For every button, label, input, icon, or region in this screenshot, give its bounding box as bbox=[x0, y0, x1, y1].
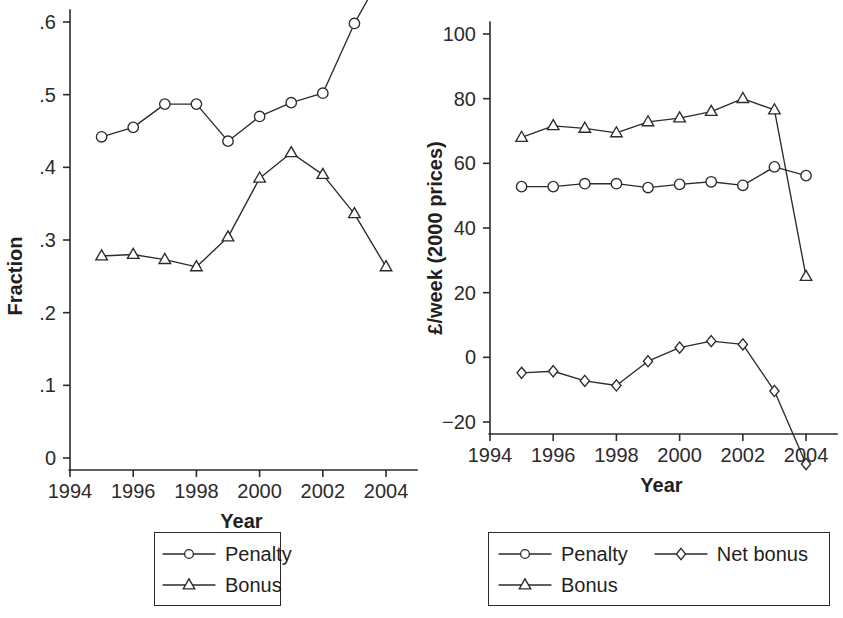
legend-key-marker bbox=[676, 548, 685, 559]
data-point-marker bbox=[96, 132, 106, 142]
data-point-marker bbox=[611, 179, 621, 189]
series-line bbox=[102, 0, 386, 141]
x-axis-tick-label: 2000 bbox=[237, 480, 282, 502]
legend-key-marker bbox=[519, 578, 531, 588]
series-line bbox=[522, 167, 806, 188]
data-point-marker bbox=[160, 99, 170, 109]
x-axis-tick-label: 1996 bbox=[111, 480, 156, 502]
x-axis-tick-label: 2002 bbox=[721, 444, 766, 466]
legend-key-triangle bbox=[162, 576, 216, 594]
data-point-marker bbox=[706, 177, 716, 187]
legend-row: Penalty bbox=[162, 538, 273, 569]
data-point-marker bbox=[579, 122, 591, 132]
series-penalty bbox=[516, 162, 811, 193]
legend-marker-circle-icon bbox=[162, 545, 216, 563]
legend-entry-penalty[interactable]: Penalty bbox=[498, 544, 628, 564]
data-point-marker bbox=[318, 88, 328, 98]
data-point-marker bbox=[707, 336, 716, 347]
x-axis-tick-label: 2000 bbox=[657, 444, 702, 466]
data-point-marker bbox=[674, 179, 684, 189]
y-axis-tick-label: .6 bbox=[39, 11, 56, 33]
y-axis-tick-label: .1 bbox=[39, 374, 56, 396]
data-point-marker bbox=[643, 182, 653, 192]
y-axis-tick-label: 100 bbox=[443, 23, 476, 45]
legend-entry-net-bonus[interactable]: Net bonus bbox=[654, 544, 808, 564]
x-axis-tick-label: 2004 bbox=[364, 480, 409, 502]
y-axis-tick-label: 80 bbox=[454, 88, 476, 110]
legend-entry-penalty[interactable]: Penalty bbox=[162, 544, 292, 564]
series-bonus bbox=[96, 147, 392, 271]
y-axis-tick-label: −20 bbox=[442, 411, 476, 433]
data-point-marker bbox=[96, 250, 108, 260]
series-line bbox=[102, 153, 386, 267]
legend-label: Penalty bbox=[225, 544, 292, 564]
data-point-marker bbox=[517, 367, 526, 378]
chart-panel-pounds-per-week: −20020406080100199419961998200020022004Y… bbox=[420, 0, 841, 618]
legend-key-diamond bbox=[654, 545, 708, 563]
legend-label: Bonus bbox=[225, 575, 282, 595]
data-point-marker bbox=[548, 181, 558, 191]
legend-marker-diamond-icon bbox=[654, 545, 708, 563]
legend-label: Net bonus bbox=[717, 544, 808, 564]
x-axis-tick-label: 1998 bbox=[174, 480, 219, 502]
data-point-marker bbox=[800, 270, 812, 280]
legend-pounds-chart: PenaltyNet bonusBonus bbox=[488, 532, 830, 606]
data-point-marker bbox=[675, 342, 684, 353]
x-axis-tick-label: 2002 bbox=[301, 480, 346, 502]
legend-entry-bonus[interactable]: Bonus bbox=[498, 575, 618, 595]
x-axis-tick-label: 1998 bbox=[594, 444, 639, 466]
x-axis-tick-label: 1996 bbox=[531, 444, 576, 466]
data-point-marker bbox=[286, 97, 296, 107]
figure-canvas: 0.1.2.3.4.5.6199419961998200020022004Yea… bbox=[0, 0, 843, 618]
data-point-marker bbox=[642, 116, 654, 126]
legend-entry-bonus[interactable]: Bonus bbox=[162, 575, 282, 595]
data-point-marker bbox=[612, 380, 621, 391]
legend-marker-triangle-icon bbox=[162, 576, 216, 594]
legend-key-triangle bbox=[498, 576, 552, 594]
x-axis-title: Year bbox=[220, 510, 262, 532]
data-point-marker bbox=[769, 162, 779, 172]
chart-panel-fraction: 0.1.2.3.4.5.6199419961998200020022004Yea… bbox=[0, 0, 421, 618]
y-axis-tick-label: .3 bbox=[39, 229, 56, 251]
y-axis-tick-label: .5 bbox=[39, 84, 56, 106]
data-point-marker bbox=[580, 375, 589, 386]
y-axis-title: £/week (2000 prices) bbox=[424, 141, 446, 334]
y-axis-tick-label: 0 bbox=[465, 346, 476, 368]
legend-label: Penalty bbox=[561, 544, 628, 564]
y-axis-tick-label: 20 bbox=[454, 282, 476, 304]
legend-key-marker bbox=[183, 578, 195, 588]
x-axis-tick-label: 1994 bbox=[48, 480, 93, 502]
data-point-marker bbox=[349, 18, 359, 28]
data-point-marker bbox=[317, 168, 329, 178]
legend-key-circle bbox=[162, 545, 216, 563]
legend-marker-triangle-icon bbox=[498, 576, 552, 594]
legend-key-circle bbox=[498, 545, 552, 563]
data-point-marker bbox=[191, 99, 201, 109]
series-penalty bbox=[96, 0, 391, 146]
x-axis-title: Year bbox=[640, 474, 682, 496]
data-point-marker bbox=[285, 147, 297, 157]
legend-key-marker bbox=[521, 549, 530, 558]
y-axis-tick-label: 60 bbox=[454, 152, 476, 174]
legend-row: Bonus bbox=[162, 569, 273, 600]
data-point-marker bbox=[254, 111, 264, 121]
legend-label: Bonus bbox=[561, 575, 618, 595]
data-point-marker bbox=[547, 120, 559, 130]
data-point-marker bbox=[643, 356, 652, 367]
data-point-marker bbox=[516, 181, 526, 191]
y-axis-tick-label: .2 bbox=[39, 302, 56, 324]
pounds-per-week-line-chart: −20020406080100199419961998200020022004Y… bbox=[420, 0, 841, 618]
legend-row: PenaltyNet bonus bbox=[498, 538, 820, 569]
data-point-marker bbox=[223, 136, 233, 146]
data-point-marker bbox=[580, 179, 590, 189]
legend-row: Bonus bbox=[498, 569, 820, 600]
data-point-marker bbox=[738, 180, 748, 190]
data-point-marker bbox=[128, 122, 138, 132]
data-point-marker bbox=[737, 92, 749, 102]
y-axis-tick-label: 0 bbox=[45, 447, 56, 469]
data-point-marker bbox=[254, 172, 266, 182]
data-point-marker bbox=[222, 231, 234, 241]
legend-marker-circle-icon bbox=[498, 545, 552, 563]
x-axis-tick-label: 1994 bbox=[468, 444, 513, 466]
data-point-marker bbox=[801, 170, 811, 180]
